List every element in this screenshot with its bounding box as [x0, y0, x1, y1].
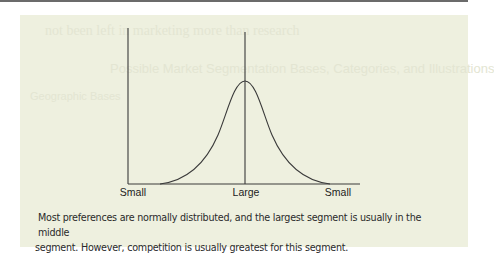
caption-line-2: segment. However, competition is usually…: [35, 240, 455, 254]
figure-panel: not been left in marketing more than res…: [20, 15, 468, 247]
x-label-right: Small: [325, 186, 351, 198]
caption-line-1: Most preferences are normally distribute…: [35, 210, 455, 240]
top-rule: [0, 0, 468, 2]
x-label-left: Small: [120, 186, 146, 198]
x-label-center: Large: [233, 186, 260, 198]
figure-caption: Most preferences are normally distribute…: [35, 210, 455, 254]
